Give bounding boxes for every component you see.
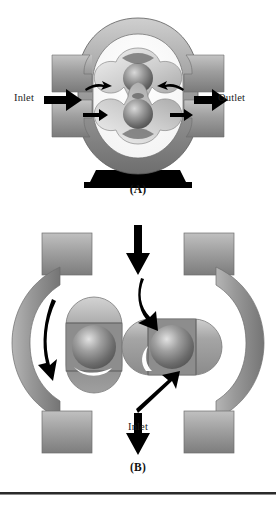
panel-a-caption: (A) [0,183,276,195]
rotor-right-capsule [122,319,222,375]
panel-b-illustration [0,205,276,480]
panel-a-inlet-label: Inlet [14,92,34,103]
outlet-arrow-b [126,413,150,455]
inlet-flow-arrow-b [138,278,158,331]
inlet-arrow-b [126,225,150,275]
panel-b-caption: (B) [0,461,276,473]
rotor-left-capsule [66,297,122,393]
outlet-flow-arrow-b [136,371,180,413]
panel-a-outlet-label: Outlet [218,92,245,103]
inlet-port-flange [52,55,92,92]
panel-b: Inlet Outlet [0,205,276,480]
figure-page: Inlet Outlet (A) [0,0,276,511]
panel-b-inlet-label: Inlet [0,421,276,432]
panel-a: Inlet Outlet [0,0,276,205]
rotor-mesh-point [132,93,144,99]
page-bottom-rule-shadow [0,494,276,495]
rotation-arrow-left [38,299,57,381]
